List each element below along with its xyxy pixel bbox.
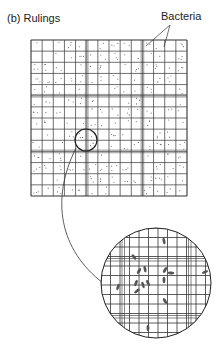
- magnified-view: [101, 228, 215, 342]
- connector-curve: [62, 148, 103, 283]
- bacteria-pointers: [146, 25, 170, 47]
- counting-chamber-grid: [31, 40, 187, 196]
- rulings-diagram: [0, 0, 221, 352]
